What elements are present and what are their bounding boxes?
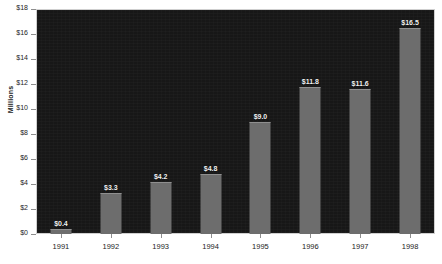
y-axis-tick-mark (31, 134, 36, 135)
x-axis-tick: 1991 (36, 234, 86, 264)
y-axis-tick-mark (31, 109, 36, 110)
x-axis-tick-mark (61, 234, 62, 238)
y-axis-tick-label: $10 (16, 104, 28, 111)
y-axis-tick-label: $8 (20, 129, 28, 136)
y-axis-tick-mark (31, 9, 36, 10)
bar-chart-screenshot: Millions $18$16$14$12$10$8$6$4$2$0 $0.4$… (0, 0, 442, 264)
x-axis-tick-mark (161, 234, 162, 238)
y-axis-tick-label: $0 (20, 229, 28, 236)
x-axis-tick-label: 1995 (236, 242, 286, 251)
y-axis-tick-mark (31, 159, 36, 160)
x-axis-tick-mark (410, 234, 411, 238)
y-axis-tick-label: $6 (20, 154, 28, 161)
x-axis-tick: 1996 (285, 234, 335, 264)
x-axis-tick-mark (211, 234, 212, 238)
x-axis-tick: 1993 (136, 234, 186, 264)
x-axis-tick-label: 1992 (86, 242, 136, 251)
x-axis-tick-mark (310, 234, 311, 238)
y-axis-title: Millions (7, 70, 14, 130)
x-axis-tick-mark (111, 234, 112, 238)
y-axis-tick-label: $2 (20, 204, 28, 211)
x-axis-tick-label: 1993 (136, 242, 186, 251)
y-axis-tick-label: $4 (20, 179, 28, 186)
x-axis-tick: 1997 (335, 234, 385, 264)
x-axis-tick: 1994 (186, 234, 236, 264)
x-axis-tick-label: 1998 (385, 242, 435, 251)
y-axis-tick-mark (31, 209, 36, 210)
y-axis-tick-label: $14 (16, 54, 28, 61)
y-axis-tick-mark (31, 59, 36, 60)
y-axis-tick-label: $16 (16, 29, 28, 36)
x-axis-tick-label: 1996 (285, 242, 335, 251)
plot-background-texture (37, 10, 434, 233)
x-axis-tick-label: 1994 (186, 242, 236, 251)
x-axis-tick-label: 1997 (335, 242, 385, 251)
plot-area (36, 9, 435, 234)
y-axis-tick-label: $18 (16, 4, 28, 11)
x-axis-tick: 1995 (236, 234, 286, 264)
y-axis-tick-label: $12 (16, 79, 28, 86)
x-axis-tick: 1998 (385, 234, 435, 264)
y-axis-tick-mark (31, 84, 36, 85)
x-axis-tick: 1992 (86, 234, 136, 264)
x-axis-tick-mark (360, 234, 361, 238)
y-axis-tick-mark (31, 184, 36, 185)
x-axis-tick-label: 1991 (36, 242, 86, 251)
x-axis-tick-mark (260, 234, 261, 238)
y-axis-tick-mark (31, 34, 36, 35)
x-axis-ticks: 19911992199319941995199619971998 (36, 234, 435, 264)
